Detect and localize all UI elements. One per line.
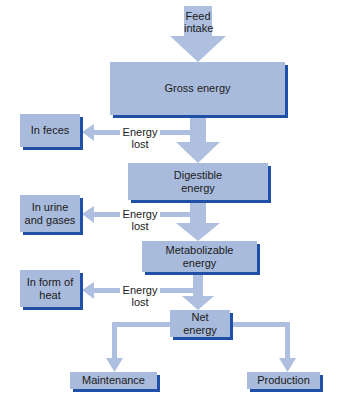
gross-energy-label: Gross energy [164,82,230,95]
maintenance-label: Maintenance [82,374,145,387]
production-box: Production [247,372,320,389]
metabolizable-energy-box: Metabolizable energy [142,241,257,272]
gross-energy-box: Gross energy [110,62,285,115]
energy-lost-label-3: Energy lost [120,284,160,308]
feces-box: In feces [20,114,80,147]
feces-label: In feces [31,124,70,137]
net-energy-box: Net energy [170,310,230,337]
urine-gases-label: In urine and gases [22,201,78,227]
digestible-energy-box: Digestible energy [128,163,268,200]
digestible-energy-label: Digestible energy [158,169,238,195]
energy-lost-label-1: Energy lost [120,126,160,150]
maintenance-box: Maintenance [70,372,157,389]
metabolizable-energy-label: Metabolizable energy [155,244,245,270]
net-energy-label: Net energy [178,311,222,337]
heat-label: In form of heat [25,276,75,302]
feed-intake-label: Feed intake [184,10,212,34]
energy-lost-label-2: Energy lost [120,208,160,232]
production-label: Production [257,374,310,387]
heat-box: In form of heat [20,270,80,307]
urine-gases-box: In urine and gases [20,195,80,232]
